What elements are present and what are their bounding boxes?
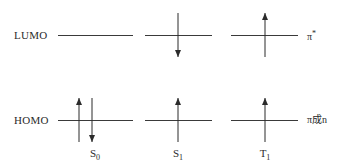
orbital-label-star: *	[312, 29, 316, 38]
electron-spin-arrows	[0, 0, 344, 167]
orbital-line-s1-lumo	[145, 35, 212, 36]
state-label-s0: S0	[75, 148, 115, 162]
orbital-label-text: π成n	[307, 114, 327, 125]
state-label-subscript: 0	[96, 153, 100, 162]
orbital-line-s1-homo	[145, 120, 212, 121]
state-label-s1: S1	[158, 148, 198, 162]
orbital-label-lumo: π*	[307, 30, 316, 42]
orbital-line-s0-homo	[58, 120, 133, 121]
orbital-line-t1-homo	[231, 120, 298, 121]
energy-level-label-homo: HOMO	[14, 115, 49, 126]
state-label-t1: T1	[245, 148, 285, 162]
state-label-subscript: 1	[266, 153, 270, 162]
orbital-label-homo: π成n	[307, 115, 327, 125]
state-label-subscript: 1	[179, 153, 183, 162]
energy-level-label-lumo: LUMO	[14, 30, 48, 41]
orbital-line-s0-lumo	[58, 35, 133, 36]
mo-energy-diagram: LUMOHOMO π*π成n S0S1T1	[0, 0, 344, 167]
orbital-line-t1-lumo	[231, 35, 298, 36]
